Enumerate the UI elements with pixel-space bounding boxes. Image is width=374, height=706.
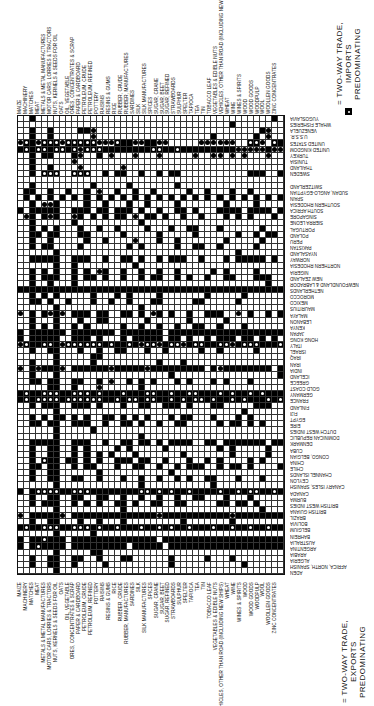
legend-text: = TWO-WAY TRADE, IMPORTS PREDOMINATING bbox=[335, 22, 362, 105]
country-label: KENYA bbox=[290, 324, 370, 330]
country-label: UNITED STATES bbox=[290, 140, 370, 146]
country-labels: YUGOSLAVIAWHALE FISHERIESVENEZUELAU.S.S.… bbox=[290, 115, 370, 575]
country-label: SIERRA LEONE bbox=[290, 219, 370, 225]
country-label: NIGERIA bbox=[290, 269, 370, 275]
country-label: UNITED KINGDOM bbox=[290, 146, 370, 152]
country-label: PORTUGAL bbox=[290, 226, 370, 232]
country-label: FINLAND bbox=[290, 404, 370, 410]
legend-imports-predominating: = TWO-WAY TRADE, IMPORTS PREDOMINATING bbox=[335, 22, 362, 115]
country-label: BAHREIN bbox=[290, 533, 370, 539]
country-label: IRAQ bbox=[290, 354, 370, 360]
trade-matrix-grid bbox=[17, 115, 285, 575]
country-label: NORTHERN RHODESIA bbox=[290, 262, 370, 268]
two-way-trade-icon bbox=[345, 108, 352, 115]
column-label: ZINC CONCENTRATES bbox=[272, 4, 278, 114]
country-label: CUBA bbox=[290, 447, 370, 453]
country-label: BURMA bbox=[290, 496, 370, 502]
country-label: ADEN bbox=[290, 569, 370, 575]
country-label: IRAN bbox=[290, 361, 370, 367]
country-label bbox=[290, 176, 370, 182]
country-label: MALAYA bbox=[290, 312, 370, 318]
country-label: LEBANON bbox=[290, 318, 370, 324]
country-label: NEW ZEALAND bbox=[290, 275, 370, 281]
country-label: CANADA bbox=[290, 490, 370, 496]
country-label: SWITZERLAND bbox=[290, 183, 370, 189]
column-labels-top: MAIZEMACHINERYMATCHESMEATMETALS & METAL … bbox=[17, 4, 285, 114]
country-label: MAURITIUS bbox=[290, 305, 370, 311]
country-label: FRANCE bbox=[290, 397, 370, 403]
column-labels-bottom: MAIZEMACHINERYMATCHESMEATMETALS & METAL … bbox=[17, 582, 285, 692]
country-label: FIJI bbox=[290, 410, 370, 416]
legend-exports-predominating: = TWO-WAY TRADE, EXPORTS PREDOMINATING bbox=[340, 620, 367, 706]
country-label: INDIA bbox=[290, 367, 370, 373]
country-label: CONGO, BELGIAN bbox=[290, 453, 370, 459]
column-label: ZINC CONCENTRATES bbox=[272, 582, 278, 692]
country-label: SUDAN, ANGLO-EGYPTIAN bbox=[290, 189, 370, 195]
country-label: POLAND bbox=[290, 232, 370, 238]
country-label: DENMARK bbox=[290, 440, 370, 446]
country-label: BELGIUM bbox=[290, 526, 370, 532]
matrix-cell bbox=[278, 568, 284, 574]
legend-text: = TWO-WAY TRADE, EXPORTS PREDOMINATING bbox=[340, 620, 367, 703]
country-label: U.S.S.R. bbox=[290, 133, 370, 139]
country-label: CANARY ISLES, SPANISH bbox=[290, 483, 370, 489]
country-label: AUSTRALIA bbox=[290, 539, 370, 545]
